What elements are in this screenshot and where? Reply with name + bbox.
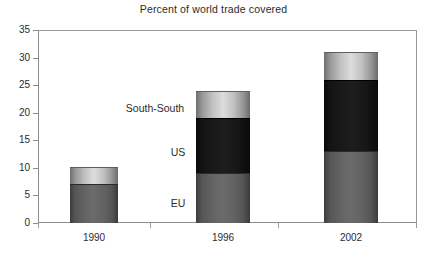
x-tick-label-1996: 1996: [212, 232, 234, 243]
x-tick-mark-start: [38, 223, 39, 228]
y-tick-label-15: 15: [0, 135, 30, 145]
x-tick-mark-2: [278, 223, 279, 228]
bar-segment-1996-south-south[interactable]: [196, 91, 250, 119]
x-tick-mark-end: [416, 223, 417, 228]
x-tick-label-2002: 2002: [340, 232, 362, 243]
y-tick-label-20: 20: [0, 108, 30, 118]
bar-segment-1996-us[interactable]: [196, 118, 250, 173]
bar-segment-2002-south-south[interactable]: [324, 52, 378, 80]
bar-group-2002[interactable]: [324, 52, 378, 223]
y-tick-label-35: 35: [0, 25, 30, 35]
bar-segment-1990-eu[interactable]: [70, 184, 118, 223]
x-tick-label-1990: 1990: [83, 232, 105, 243]
series-label-eu: EU: [171, 197, 186, 209]
y-tick-label-0: 0: [0, 218, 30, 228]
series-label-us: US: [171, 146, 186, 158]
bar-segment-2002-eu[interactable]: [324, 151, 378, 223]
bar-segment-1990-south-south[interactable]: [70, 167, 118, 185]
bar-group-1990[interactable]: [70, 167, 118, 223]
chart-title: Percent of world trade covered: [0, 3, 427, 15]
bar-segment-2002-us[interactable]: [324, 80, 378, 152]
chart-figure: Percent of world trade covered 0 5 10 15…: [0, 0, 427, 262]
x-tick-mark-1: [150, 223, 151, 228]
bar-group-1996[interactable]: [196, 91, 250, 223]
y-tick-label-30: 30: [0, 53, 30, 63]
bar-segment-1996-eu[interactable]: [196, 173, 250, 223]
y-axis-tick-labels: 0 5 10 15 20 25 30 35: [0, 30, 30, 223]
y-tick-label-25: 25: [0, 80, 30, 90]
series-label-south-south: South-South: [126, 102, 184, 114]
x-axis-tick-marks: [38, 223, 417, 229]
x-axis-tick-labels: 1990 1996 2002: [38, 232, 417, 250]
y-tick-label-5: 5: [0, 190, 30, 200]
bars-layer: South-South US EU: [38, 30, 417, 223]
y-tick-label-10: 10: [0, 163, 30, 173]
